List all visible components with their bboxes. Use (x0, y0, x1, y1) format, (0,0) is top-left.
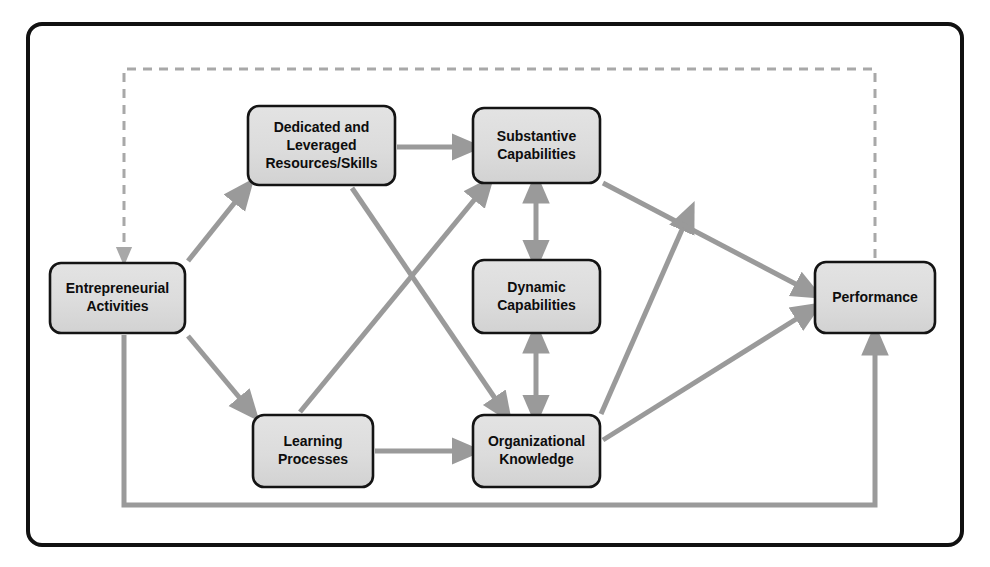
node-label-line: Dynamic (507, 278, 566, 294)
node-label-line: Leveraged (286, 136, 356, 152)
node-label-line: Learning (283, 433, 342, 449)
node-label-line: Capabilities (497, 296, 576, 312)
node-dedicated-leveraged-resources[interactable]: Dedicated andLeveragedResources/Skills (248, 106, 395, 185)
node-label-line: Knowledge (499, 451, 574, 467)
edge-ea-to-learning (188, 336, 249, 409)
diagram-canvas: EntrepreneurialActivitiesDedicated andLe… (0, 0, 990, 567)
node-label-line: Dedicated and (274, 118, 370, 134)
node-label-line: Entrepreneurial (66, 280, 169, 296)
node-label-line: Capabilities (497, 145, 576, 161)
node-learning-processes[interactable]: LearningProcesses (253, 415, 373, 487)
flow-diagram: EntrepreneurialActivitiesDedicated andLe… (0, 0, 990, 567)
node-label: Performance (832, 288, 918, 304)
node-organizational-knowledge[interactable]: OrganizationalKnowledge (473, 415, 600, 487)
edge-substantive-to-performance (603, 183, 809, 291)
node-substantive-capabilities[interactable]: SubstantiveCapabilities (473, 108, 600, 183)
edge-organizational-knowledge-to-performance (603, 311, 809, 440)
node-layer: EntrepreneurialActivitiesDedicated andLe… (50, 106, 935, 487)
node-performance[interactable]: Performance (815, 262, 935, 333)
node-label-line: Processes (278, 451, 348, 467)
node-label-line: Resources/Skills (265, 154, 377, 170)
edge-organizational-knowledge-to-substantive (601, 216, 688, 414)
node-entrepreneurial-activities[interactable]: EntrepreneurialActivities (50, 263, 185, 333)
node-label-line: Activities (86, 298, 148, 314)
edge-learning-to-substantive (300, 188, 484, 412)
node-label-line: Performance (832, 288, 918, 304)
node-label-line: Organizational (488, 433, 585, 449)
node-label-line: Substantive (497, 127, 577, 143)
node-dynamic-capabilities[interactable]: DynamicCapabilities (473, 260, 600, 333)
edge-ea-to-dedicated (188, 191, 244, 261)
